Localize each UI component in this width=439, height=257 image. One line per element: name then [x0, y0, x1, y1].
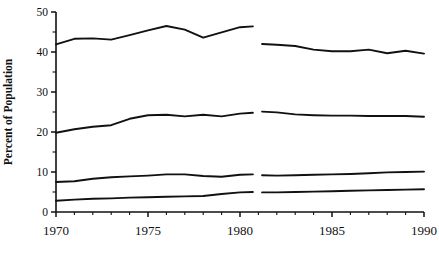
x-axis-tick-label: 1980: [227, 223, 253, 238]
series-3-segment-1: [56, 174, 253, 182]
series-1-segment-2: [262, 44, 424, 54]
y-axis-title: Percent of Population: [2, 58, 15, 165]
x-axis-tick-label: 1970: [43, 223, 69, 238]
series-3-segment-2: [262, 172, 424, 176]
y-axis-tick-label: 50: [37, 6, 49, 18]
x-axis: 19701975198019851990: [43, 212, 437, 238]
series-4-segment-2: [262, 189, 424, 192]
y-axis: 01020304050: [37, 6, 57, 218]
line-chart: 01020304050 19701975198019851990 Percent…: [0, 0, 439, 257]
y-axis-tick-label: 10: [37, 166, 49, 178]
y-axis-tick-label: 20: [37, 126, 49, 138]
x-axis-tick-label: 1975: [135, 223, 161, 238]
series-2-segment-2: [262, 112, 424, 117]
y-axis-tick-label: 0: [42, 206, 48, 218]
x-axis-tick-label: 1985: [319, 223, 345, 238]
x-axis-tick-label: 1990: [411, 223, 437, 238]
y-axis-tick-label: 40: [37, 46, 49, 58]
series-1-segment-1: [56, 26, 253, 44]
series-4-segment-1: [56, 192, 253, 201]
data-series-group: [56, 26, 424, 201]
series-2-segment-1: [56, 113, 253, 133]
y-axis-tick-label: 30: [37, 86, 49, 98]
chart-canvas: 01020304050 19701975198019851990 Percent…: [0, 0, 439, 257]
